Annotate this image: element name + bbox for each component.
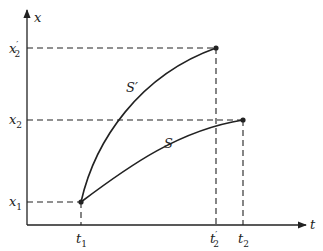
curve-s bbox=[81, 120, 243, 202]
tick-x1: x1 bbox=[9, 194, 22, 212]
y-axis-label: x bbox=[34, 10, 42, 25]
tick-t2: t2 bbox=[238, 231, 249, 249]
curve-s-label: S bbox=[164, 136, 173, 151]
curve-s-prime-label: S′ bbox=[126, 80, 138, 95]
x-axis-label: t bbox=[310, 217, 316, 232]
curve-s-prime bbox=[81, 48, 216, 202]
guide-lines bbox=[27, 48, 243, 225]
tick-x2: x2 bbox=[9, 112, 22, 130]
tick-t2prime: t′2 bbox=[210, 230, 219, 249]
event-point-2 bbox=[240, 117, 245, 122]
worldline-diagram: x t x′2 x2 x1 t1 t′2 t2 S′ S bbox=[0, 0, 323, 251]
event-point-1 bbox=[78, 199, 83, 204]
event-point-2prime bbox=[213, 45, 218, 50]
tick-t1: t1 bbox=[76, 231, 87, 249]
tick-x2prime: x′2 bbox=[9, 40, 20, 59]
